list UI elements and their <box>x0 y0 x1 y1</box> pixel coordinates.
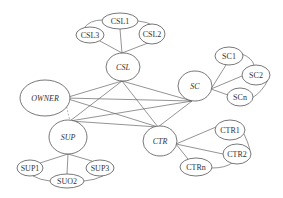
edge-ctr2-ctrn <box>212 163 232 168</box>
node-label: CTR <box>153 137 168 146</box>
node-label: SUP <box>61 133 76 142</box>
node-label: SC2 <box>249 71 263 80</box>
edge-csl-csl1 <box>120 29 122 53</box>
node-sc: SC <box>178 71 212 101</box>
node-label: CSL <box>116 63 130 72</box>
node-label: CSL1 <box>111 17 130 26</box>
node-label: CTR1 <box>220 126 240 135</box>
node-label: SC <box>190 82 200 91</box>
edge-csl-sup <box>70 81 122 121</box>
edge-sc-scn <box>211 89 228 95</box>
edge-sup1-suo2 <box>33 176 50 181</box>
edge-sc1-sc2 <box>242 54 254 65</box>
node-ctr: CTR <box>143 126 177 156</box>
edge-sup-suo2 <box>67 154 68 174</box>
node-csl: CSL <box>106 53 140 81</box>
node-owner: OWNER <box>20 80 70 116</box>
node-label: SC1 <box>222 52 236 61</box>
edge-sup-sup3 <box>68 154 92 161</box>
node-sup3: SUP3 <box>86 160 114 176</box>
node-label: SUP3 <box>91 164 110 173</box>
node-ctr1: CTR1 <box>215 120 245 140</box>
node-sc2: SC2 <box>242 65 270 85</box>
edge-sc-ctr <box>158 101 192 127</box>
edge-sup-ctr <box>70 121 158 127</box>
edge-sc-sc1 <box>211 65 226 89</box>
node-label: SCn <box>233 93 247 102</box>
edge-owner-csl <box>65 81 122 98</box>
edge-csl-ctr <box>122 81 158 127</box>
edge-owner-sc <box>65 98 192 101</box>
edge-csl-csl3 <box>100 41 122 53</box>
node-label: CTR2 <box>227 150 247 159</box>
node-ctr2: CTR2 <box>223 144 251 164</box>
edge-csl-csl2 <box>122 43 148 53</box>
edge-sup3-suo2 <box>84 176 103 181</box>
node-label: CSL2 <box>143 30 162 39</box>
node-scn: SCn <box>227 88 253 106</box>
node-csl2: CSL2 <box>139 24 165 44</box>
node-label: OWNER <box>31 94 59 103</box>
edge-sup-sup1 <box>40 154 68 163</box>
node-sup1: SUP1 <box>17 160 43 176</box>
node-csl1: CSL1 <box>102 13 138 29</box>
node-suo2: SUO2 <box>50 174 84 188</box>
node-ctrn: CTRn <box>180 158 212 176</box>
node-label: CSL3 <box>81 31 100 40</box>
nodes-layer: CSL1CSL2CSL3SC1SC2SCnCTR1CTR2CTRnSUP1SUP… <box>17 13 270 188</box>
edge-ctr-ctr1 <box>176 127 216 144</box>
edge-sc-sup <box>70 101 192 121</box>
node-label: CTRn <box>186 163 206 172</box>
edge-sc-sc2 <box>211 76 242 89</box>
node-sc1: SC1 <box>215 47 243 65</box>
node-label: SUP1 <box>21 164 40 173</box>
node-sup: SUP <box>49 120 87 154</box>
network-diagram: CSL1CSL2CSL3SC1SC2SCnCTR1CTR2CTRnSUP1SUP… <box>0 0 283 198</box>
node-csl3: CSL3 <box>76 27 104 43</box>
node-label: SUO2 <box>57 177 77 186</box>
